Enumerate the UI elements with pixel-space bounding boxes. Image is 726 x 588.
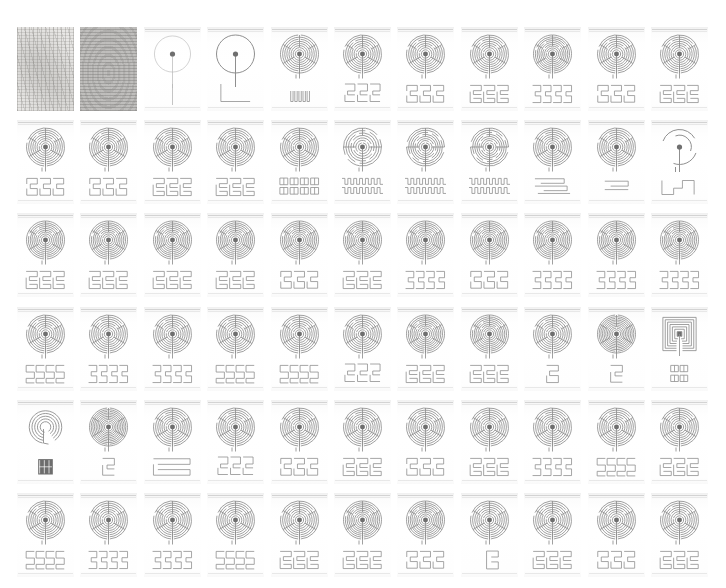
labyrinth-cell[interactable] bbox=[14, 22, 77, 115]
labyrinth-cell[interactable]: 66 bbox=[648, 488, 711, 581]
labyrinth-cell[interactable]: 52 bbox=[458, 395, 521, 488]
labyrinth-cell[interactable]: 26 bbox=[204, 208, 267, 301]
labyrinth-card: 24 bbox=[80, 213, 137, 297]
labyrinth-figure bbox=[461, 400, 518, 484]
labyrinth-cell[interactable]: 35 bbox=[77, 302, 140, 395]
labyrinth-cell[interactable]: 53 bbox=[521, 395, 584, 488]
labyrinth-cell[interactable]: 20 bbox=[521, 115, 584, 208]
labyrinth-cell[interactable]: 50 bbox=[331, 395, 394, 488]
labyrinth-figure bbox=[17, 400, 74, 484]
labyrinth-cell[interactable]: 33 bbox=[648, 208, 711, 301]
labyrinth-card: 13 bbox=[80, 120, 137, 204]
labyrinth-card: 44 bbox=[651, 307, 708, 391]
labyrinth-card: 65 bbox=[588, 493, 645, 577]
labyrinth-cell[interactable]: 17 bbox=[331, 115, 394, 208]
labyrinth-cell[interactable]: 39 bbox=[331, 302, 394, 395]
labyrinth-card: 48 bbox=[207, 400, 264, 484]
labyrinth-cell[interactable]: 13 bbox=[77, 115, 140, 208]
labyrinth-cell[interactable]: 3 bbox=[141, 22, 204, 115]
labyrinth-figure bbox=[651, 27, 708, 111]
labyrinth-card: 12 bbox=[17, 120, 74, 204]
labyrinth-cell[interactable]: 51 bbox=[394, 395, 457, 488]
labyrinth-cell[interactable]: 44 bbox=[648, 302, 711, 395]
labyrinth-cell[interactable]: 34 bbox=[14, 302, 77, 395]
labyrinth-figure bbox=[334, 307, 391, 391]
labyrinth-cell[interactable]: 56 bbox=[14, 488, 77, 581]
labyrinth-figure bbox=[17, 120, 74, 204]
labyrinth-cell[interactable]: 22 bbox=[648, 115, 711, 208]
labyrinth-cell[interactable]: 55 bbox=[648, 395, 711, 488]
labyrinth-cell[interactable]: 36 bbox=[141, 302, 204, 395]
labyrinth-cell[interactable]: 30 bbox=[458, 208, 521, 301]
labyrinth-cell[interactable]: 59 bbox=[204, 488, 267, 581]
labyrinth-card: 30 bbox=[461, 213, 518, 297]
labyrinth-figure bbox=[207, 213, 264, 297]
labyrinth-cell[interactable]: 57 bbox=[77, 488, 140, 581]
labyrinth-cell[interactable]: 65 bbox=[585, 488, 648, 581]
labyrinth-cell[interactable]: 25 bbox=[141, 208, 204, 301]
labyrinth-cell[interactable]: 48 bbox=[204, 395, 267, 488]
labyrinth-cell[interactable]: 28 bbox=[331, 208, 394, 301]
labyrinth-cell[interactable]: 27 bbox=[268, 208, 331, 301]
labyrinth-cell[interactable]: 46 bbox=[77, 395, 140, 488]
labyrinth-cell[interactable]: 38 bbox=[268, 302, 331, 395]
labyrinth-card: 19 bbox=[461, 120, 518, 204]
labyrinth-figure bbox=[271, 493, 328, 577]
labyrinth-cell[interactable]: 9 bbox=[521, 22, 584, 115]
labyrinth-card: 60 bbox=[271, 493, 328, 577]
labyrinth-cell[interactable]: 29 bbox=[394, 208, 457, 301]
labyrinth-cell[interactable]: 10 bbox=[585, 22, 648, 115]
labyrinth-plate: 3456789101112131415161718192021222324252… bbox=[0, 0, 726, 588]
labyrinth-cell[interactable]: 42 bbox=[521, 302, 584, 395]
labyrinth-cell[interactable]: 47 bbox=[141, 395, 204, 488]
labyrinth-card: 4 bbox=[207, 27, 264, 111]
labyrinth-cell[interactable]: 16 bbox=[268, 115, 331, 208]
labyrinth-card: 63 bbox=[461, 493, 518, 577]
labyrinth-cell[interactable]: 49 bbox=[268, 395, 331, 488]
labyrinth-cell[interactable]: 60 bbox=[268, 488, 331, 581]
labyrinth-cell[interactable]: 31 bbox=[521, 208, 584, 301]
labyrinth-cell[interactable]: 7 bbox=[394, 22, 457, 115]
labyrinth-card: 51 bbox=[397, 400, 454, 484]
labyrinth-cell[interactable]: 43 bbox=[585, 302, 648, 395]
labyrinth-cell[interactable]: 54 bbox=[585, 395, 648, 488]
labyrinth-cell[interactable]: 62 bbox=[394, 488, 457, 581]
labyrinth-cell[interactable]: 4 bbox=[204, 22, 267, 115]
labyrinth-cell[interactable]: 23 bbox=[14, 208, 77, 301]
labyrinth-cell[interactable]: 8 bbox=[458, 22, 521, 115]
labyrinth-cell[interactable]: 58 bbox=[141, 488, 204, 581]
labyrinth-figure bbox=[461, 493, 518, 577]
labyrinth-figure bbox=[397, 213, 454, 297]
labyrinth-figure bbox=[397, 27, 454, 111]
labyrinth-cell[interactable]: 41 bbox=[458, 302, 521, 395]
labyrinth-cell[interactable]: 24 bbox=[77, 208, 140, 301]
labyrinth-figure bbox=[271, 213, 328, 297]
labyrinth-cell[interactable] bbox=[77, 22, 140, 115]
labyrinth-cell[interactable]: 64 bbox=[521, 488, 584, 581]
labyrinth-cell[interactable]: 12 bbox=[14, 115, 77, 208]
labyrinth-card: 8 bbox=[461, 27, 518, 111]
labyrinth-cell[interactable]: 15 bbox=[204, 115, 267, 208]
labyrinth-figure bbox=[17, 213, 74, 297]
labyrinth-cell[interactable]: 40 bbox=[394, 302, 457, 395]
labyrinth-cell[interactable]: 14 bbox=[141, 115, 204, 208]
labyrinth-cell[interactable]: 5 bbox=[268, 22, 331, 115]
labyrinth-figure bbox=[588, 120, 645, 204]
labyrinth-figure bbox=[588, 307, 645, 391]
labyrinth-cell[interactable]: 18 bbox=[394, 115, 457, 208]
labyrinth-figure bbox=[334, 120, 391, 204]
labyrinth-cell[interactable]: 6 bbox=[331, 22, 394, 115]
labyrinth-cell[interactable]: 19 bbox=[458, 115, 521, 208]
labyrinth-cell[interactable]: 61 bbox=[331, 488, 394, 581]
labyrinth-figure bbox=[80, 493, 137, 577]
labyrinth-card: 23 bbox=[17, 213, 74, 297]
labyrinth-card: 40 bbox=[397, 307, 454, 391]
labyrinth-card: 37 bbox=[207, 307, 264, 391]
labyrinth-figure bbox=[651, 307, 708, 391]
labyrinth-cell[interactable]: 37 bbox=[204, 302, 267, 395]
labyrinth-cell[interactable]: 11 bbox=[648, 22, 711, 115]
labyrinth-cell[interactable]: 45 bbox=[14, 395, 77, 488]
labyrinth-cell[interactable]: 21 bbox=[585, 115, 648, 208]
labyrinth-cell[interactable]: 32 bbox=[585, 208, 648, 301]
labyrinth-cell[interactable]: 63 bbox=[458, 488, 521, 581]
